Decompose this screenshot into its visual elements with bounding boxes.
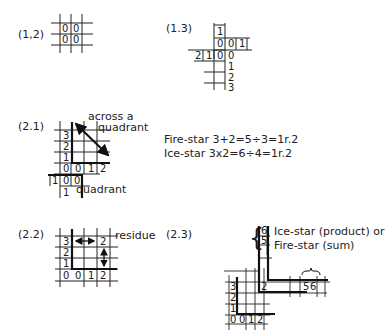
cell: 2: [261, 281, 267, 292]
cell: 0: [63, 163, 69, 174]
cell: 0: [230, 314, 236, 325]
cell: 1: [217, 26, 223, 37]
cell: 2: [195, 50, 201, 61]
figure-2-1-grid: [50, 121, 110, 198]
cell: 0: [217, 38, 223, 49]
cell: 0: [75, 163, 81, 174]
cell: 2: [63, 247, 69, 258]
cell: 0: [63, 270, 69, 281]
cell: 1: [52, 175, 58, 186]
cell: 1: [63, 152, 69, 163]
cell: 1: [230, 303, 236, 314]
cell: 5: [261, 235, 267, 246]
cell: 0: [62, 34, 68, 45]
cell: 1: [228, 61, 234, 72]
cell: 2: [100, 236, 106, 247]
cell: 0: [63, 175, 69, 186]
cell: 2: [63, 141, 69, 152]
diagonal-arrow-icon: [76, 124, 108, 155]
cell: 2: [230, 292, 236, 303]
cell: 3: [63, 236, 69, 247]
cell: 0: [228, 38, 234, 49]
cell: 0: [217, 50, 223, 61]
cell: 2: [100, 270, 106, 281]
brace-icon: [302, 268, 320, 275]
cell: 0: [73, 34, 79, 45]
cell: 0: [239, 314, 245, 325]
cell: 0: [228, 50, 234, 61]
cell: 1: [248, 314, 254, 325]
diagram-canvas: 0 0 0 0 1 0 0 1 2 1 0 0 1 2 3: [0, 0, 386, 333]
cell: 2: [257, 314, 263, 325]
cell: 3: [228, 82, 234, 93]
cell: 1: [88, 270, 94, 281]
cell: 1: [88, 163, 94, 174]
cell: 3: [230, 281, 236, 292]
figure-1-2-grid: [51, 14, 93, 53]
cell: 1: [239, 38, 245, 49]
cell: 0: [74, 175, 80, 186]
cell: 6: [310, 281, 316, 292]
cell: 0: [73, 23, 79, 34]
cell: 3: [63, 130, 69, 141]
figure-2-1-quadrant-lines: [48, 122, 110, 198]
cell: 1: [63, 187, 69, 198]
cell: 1: [63, 258, 69, 269]
cell: 0: [62, 23, 68, 34]
cell: 2: [100, 163, 106, 174]
cell: 5: [303, 281, 309, 292]
cell: 0: [75, 270, 81, 281]
cell: 1: [206, 50, 212, 61]
